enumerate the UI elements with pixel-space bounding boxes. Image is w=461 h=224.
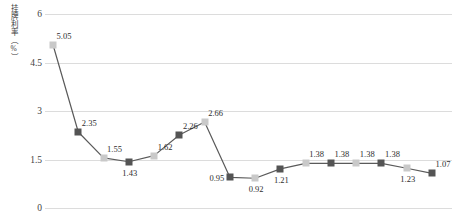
data-point-marker [302,160,309,167]
data-point-label: 0.95 [209,173,224,183]
data-point-label: 2.26 [183,121,198,131]
data-point-marker [277,165,284,172]
data-point-marker [151,152,158,159]
y-axis-tick-label: 4.5 [8,58,42,68]
y-axis-tick-label: 6 [8,9,42,19]
y-axis-tick-label: 3 [8,106,42,116]
data-point-label: 0.92 [249,184,264,194]
data-point-marker [75,129,82,136]
data-point-marker [100,154,107,161]
data-point-label: 1.38 [334,149,349,159]
data-point-label: 5.05 [57,31,72,41]
data-point-label: 2.35 [82,118,97,128]
y-axis-tick-label: 1.5 [8,155,42,165]
data-point-label: 1.21 [274,175,289,185]
data-point-label: 1.23 [400,174,415,184]
data-point-label: 1.07 [436,159,451,169]
data-point-label: 1.38 [385,149,400,159]
data-point-marker [378,160,385,167]
data-point-label: 1.62 [158,142,173,152]
data-point-marker [252,175,259,182]
chart-figure: 挂牌利率（%） 01.534.56 5.052.351.551.431.622.… [0,0,461,224]
plot-area: 5.052.351.551.431.622.262.660.950.921.21… [45,0,452,224]
data-point-label: 1.38 [309,149,324,159]
data-point-label: 2.66 [208,108,223,118]
y-axis-tick-label: 0 [8,203,42,213]
data-point-marker [226,174,233,181]
data-point-marker [176,131,183,138]
data-point-marker [327,160,334,167]
y-axis-tick-labels: 01.534.56 [0,0,42,224]
data-point-marker [125,158,132,165]
data-point-label: 1.38 [360,149,375,159]
data-point-marker [429,170,436,177]
data-point-label: 1.55 [107,144,122,154]
data-point-marker [403,165,410,172]
data-point-marker [201,118,208,125]
data-point-marker [50,41,57,48]
data-point-marker [353,160,360,167]
data-point-label: 1.43 [122,168,137,178]
